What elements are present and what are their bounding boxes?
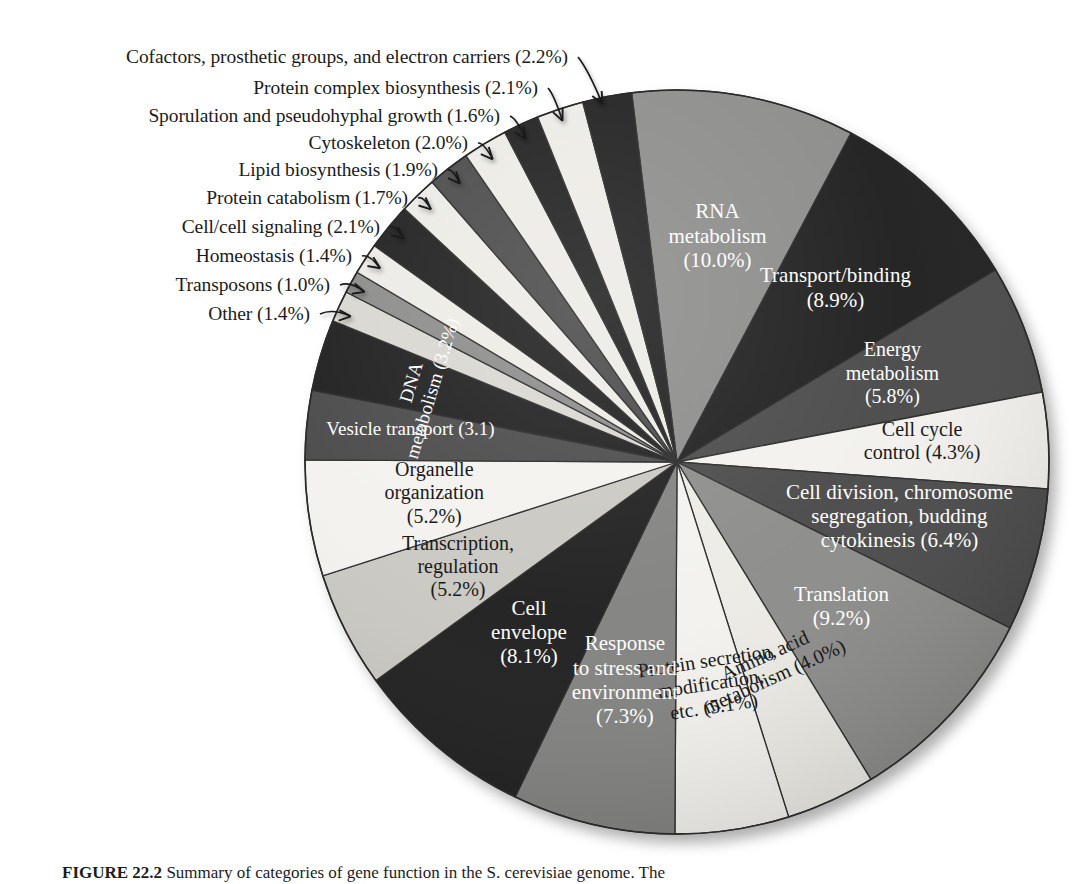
figure-caption-label: FIGURE 22.2 bbox=[62, 863, 162, 882]
callout-label: Cytoskeleton (2.0%) bbox=[309, 133, 469, 153]
pie-chart: RNAmetabolism(10.0%)Transport/binding(8.… bbox=[0, 0, 1084, 884]
callout-label: Protein catabolism (1.7%) bbox=[206, 188, 408, 208]
callout-leader-line bbox=[578, 57, 602, 104]
callout-label: Cell/cell signaling (2.1%) bbox=[182, 217, 380, 237]
figure-caption-text: Summary of categories of gene function i… bbox=[166, 863, 665, 882]
callout-label: Lipid biosynthesis (1.9%) bbox=[238, 160, 438, 180]
callout-label: Protein complex biosynthesis (2.1%) bbox=[253, 78, 538, 98]
callout-label: Cofactors, prosthetic groups, and electr… bbox=[126, 47, 568, 67]
callout-label: Homeostasis (1.4%) bbox=[196, 246, 352, 266]
callout-label: Sporulation and pseudohyphal growth (1.6… bbox=[148, 106, 500, 126]
figure-caption: FIGURE 22.2 Summary of categories of gen… bbox=[62, 862, 1062, 883]
callout-label: Other (1.4%) bbox=[208, 304, 310, 324]
figure-container: RNAmetabolism(10.0%)Transport/binding(8.… bbox=[0, 0, 1084, 884]
callout-label: Transposons (1.0%) bbox=[175, 275, 330, 295]
